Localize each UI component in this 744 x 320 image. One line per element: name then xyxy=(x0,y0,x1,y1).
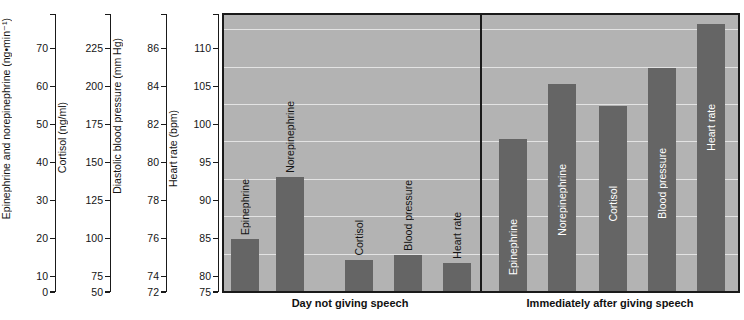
group-label: Day not giving speech xyxy=(220,297,480,309)
axis-tick-label: 0 xyxy=(42,287,48,297)
bar-label: Epinephrine xyxy=(507,219,519,275)
cortisol-axis: Cortisol (ng/ml) 2252001751501251007550 xyxy=(56,14,111,292)
axis-tick xyxy=(213,86,218,87)
axis-tick xyxy=(161,124,166,125)
axis-tick xyxy=(161,238,166,239)
axis-tick xyxy=(161,86,166,87)
epinephrine-axis-title: Epinephrine and norepinephrine (ng•min⁻¹… xyxy=(0,18,12,219)
axis-tick xyxy=(213,292,218,293)
axis-tick-label: 100 xyxy=(85,233,103,243)
axis-tick-label: 100 xyxy=(193,119,211,129)
heart-rate-axis: Heart rate (bpm) 1101051009590858075 xyxy=(167,14,219,292)
bar-label: Blood pressure xyxy=(402,180,414,251)
axis-tick xyxy=(50,86,55,87)
axis-tick-label: 50 xyxy=(91,287,103,297)
axis-tick-label: 175 xyxy=(85,119,103,129)
axis-tick xyxy=(213,162,218,163)
bar-label: Heart rate xyxy=(705,104,717,151)
axis-tick xyxy=(161,200,166,201)
bar[interactable] xyxy=(394,255,422,291)
plot-inner: EpinephrineNorepinephrineCortisolBlood p… xyxy=(224,15,738,291)
plot-area: EpinephrineNorepinephrineCortisolBlood p… xyxy=(222,13,740,293)
axis-cap-top xyxy=(213,14,219,15)
cortisol-axis-title: Cortisol (ng/ml) xyxy=(56,102,68,173)
panel-divider xyxy=(480,15,482,291)
axis-tick xyxy=(161,162,166,163)
axis-tick xyxy=(50,200,55,201)
epinephrine-axis: Epinephrine and norepinephrine (ng•min⁻¹… xyxy=(0,14,56,292)
bar-label: Blood pressure xyxy=(656,148,668,219)
blood-pressure-axis: Diastolic blood pressure (mm Hg) 8684828… xyxy=(111,14,167,292)
axis-tick xyxy=(50,124,55,125)
axis-tick xyxy=(105,292,110,293)
group-label: Immediately after giving speech xyxy=(480,297,740,309)
axis-tick xyxy=(213,276,218,277)
axis-tick xyxy=(105,200,110,201)
axis-tick-label: 78 xyxy=(147,195,159,205)
axis-tick xyxy=(213,238,218,239)
bar-label: Norepinephrine xyxy=(556,164,568,236)
axis-tick xyxy=(161,276,166,277)
axis-tick-label: 72 xyxy=(147,287,159,297)
axis-tick-label: 125 xyxy=(85,195,103,205)
axis-tick-label: 75 xyxy=(91,271,103,281)
axis-tick xyxy=(50,162,55,163)
axis-tick xyxy=(213,124,218,125)
axis-tick xyxy=(105,124,110,125)
axis-tick xyxy=(50,238,55,239)
axis-tick xyxy=(213,48,218,49)
axis-tick-label: 84 xyxy=(147,81,159,91)
axis-tick-label: 90 xyxy=(199,195,211,205)
axis-tick-label: 85 xyxy=(199,233,211,243)
bar[interactable] xyxy=(443,263,471,291)
axis-tick-label: 105 xyxy=(193,81,211,91)
axis-tick-label: 82 xyxy=(147,119,159,129)
axis-line xyxy=(218,14,219,292)
axis-tick-label: 86 xyxy=(147,43,159,53)
bar-label: Epinephrine xyxy=(239,179,251,235)
axis-tick-label: 110 xyxy=(194,43,211,53)
axis-tick-label: 40 xyxy=(36,157,48,167)
axis-tick-label: 95 xyxy=(199,157,211,167)
bar-label: Norepinephrine xyxy=(284,101,296,173)
bar-label: Heart rate xyxy=(451,212,463,259)
axis-tick-label: 76 xyxy=(147,233,159,243)
axis-tick-label: 75 xyxy=(199,287,211,297)
axis-tick-label: 225 xyxy=(85,43,103,53)
axis-tick xyxy=(105,238,110,239)
heart-rate-axis-title: Heart rate (bpm) xyxy=(167,110,179,187)
bar[interactable] xyxy=(276,177,304,291)
axis-tick xyxy=(105,162,110,163)
bar-label: Cortisol xyxy=(353,220,365,256)
axis-tick-label: 70 xyxy=(36,43,48,53)
bar[interactable] xyxy=(345,260,373,291)
axis-tick xyxy=(50,276,55,277)
axis-tick xyxy=(161,292,166,293)
bar[interactable] xyxy=(231,239,259,291)
axis-tick xyxy=(105,48,110,49)
axis-tick-label: 30 xyxy=(36,195,48,205)
axis-tick-label: 74 xyxy=(147,271,159,281)
axis-tick-label: 200 xyxy=(85,81,103,91)
axis-tick-label: 150 xyxy=(85,157,103,167)
blood-pressure-axis-title: Diastolic blood pressure (mm Hg) xyxy=(111,38,123,194)
axis-tick xyxy=(105,86,110,87)
axis-tick-label: 50 xyxy=(36,119,48,129)
axis-tick xyxy=(50,292,55,293)
axis-tick-label: 10 xyxy=(36,271,48,281)
axis-tick xyxy=(105,276,110,277)
axis-tick-label: 60 xyxy=(36,81,48,91)
bar-label: Cortisol xyxy=(607,186,619,222)
axis-tick-label: 80 xyxy=(147,157,159,167)
axis-tick-label: 80 xyxy=(199,271,211,281)
axis-tick xyxy=(50,48,55,49)
axis-tick xyxy=(213,200,218,201)
bar[interactable] xyxy=(697,24,725,291)
figure-bar-chart-stress-response: Epinephrine and norepinephrine (ng•min⁻¹… xyxy=(0,0,744,320)
axis-tick xyxy=(161,48,166,49)
axis-tick-label: 20 xyxy=(36,233,48,243)
